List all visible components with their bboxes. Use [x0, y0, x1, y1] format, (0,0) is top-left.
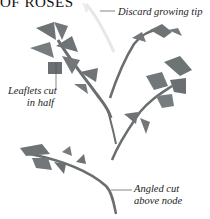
callout-discard-tip: Discard growing tip [118, 6, 202, 18]
callout-angled-cut: Angled cut above node [134, 183, 182, 207]
cutting-right [112, 56, 192, 160]
callout-leaflets-cut: Leaflets cut in half [8, 85, 54, 109]
discarded-tip [82, 2, 114, 52]
cutting-bottom [20, 144, 116, 214]
